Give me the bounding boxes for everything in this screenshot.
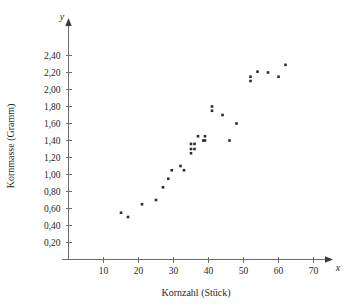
x-tick-label: 40 xyxy=(204,266,214,276)
data-point xyxy=(127,216,130,219)
y-tick-label: 1,40 xyxy=(44,136,61,146)
data-point xyxy=(190,148,193,151)
data-point xyxy=(221,114,224,117)
y-tick-label: 1,80 xyxy=(44,102,61,112)
data-point xyxy=(120,211,123,214)
y-tick-label: 2,40 xyxy=(44,51,61,61)
y-axis-title: Kornmasse (Gramm) xyxy=(5,104,17,189)
data-point xyxy=(228,139,231,142)
x-tick-label: 60 xyxy=(274,266,284,276)
y-tick-label: 0,80 xyxy=(44,187,61,197)
data-point xyxy=(204,139,207,142)
data-point xyxy=(155,199,158,202)
scatter-plot-svg: y x 0,200,400,600,801,001,201,401,601,80… xyxy=(0,0,347,306)
data-point xyxy=(249,80,252,83)
y-tick-label: 2,20 xyxy=(44,68,61,78)
data-point xyxy=(267,71,270,74)
data-point xyxy=(256,70,259,73)
data-point xyxy=(193,148,196,151)
data-point xyxy=(211,105,214,108)
y-axis-arrow-icon xyxy=(65,18,71,26)
x-tick-label: 20 xyxy=(134,266,144,276)
data-point xyxy=(277,75,280,78)
data-point xyxy=(141,203,144,206)
x-tick-label: 70 xyxy=(309,266,319,276)
data-point xyxy=(193,143,196,146)
data-point xyxy=(204,135,207,138)
data-point xyxy=(183,169,186,172)
x-tick-label: 50 xyxy=(239,266,249,276)
y-axis-ticks: 0,200,400,600,801,001,201,401,601,802,00… xyxy=(44,51,72,248)
x-axis-symbol: x xyxy=(335,262,341,273)
y-axis-symbol: y xyxy=(59,11,65,22)
x-tick-label: 30 xyxy=(169,266,179,276)
scatter-chart-figure: y x 0,200,400,600,801,001,201,401,601,80… xyxy=(0,0,347,306)
y-tick-label: 1,00 xyxy=(44,170,61,180)
x-axis-arrow-icon xyxy=(325,256,333,262)
y-tick-label: 0,20 xyxy=(44,238,61,248)
data-point xyxy=(190,152,193,155)
data-point xyxy=(284,64,287,67)
x-tick-label: 10 xyxy=(99,266,109,276)
data-point xyxy=(179,165,182,168)
data-point xyxy=(211,109,214,112)
data-point xyxy=(190,143,193,146)
data-point xyxy=(235,122,238,125)
data-point xyxy=(162,186,165,189)
data-point xyxy=(249,75,252,78)
y-tick-label: 1,20 xyxy=(44,153,61,163)
data-point xyxy=(197,135,200,138)
data-point xyxy=(167,177,170,180)
x-axis-title: Kornzahl (Stück) xyxy=(161,287,230,299)
y-tick-label: 0,60 xyxy=(44,204,61,214)
y-tick-label: 1,60 xyxy=(44,119,61,129)
data-point xyxy=(170,169,173,172)
y-tick-label: 2,00 xyxy=(44,85,61,95)
y-tick-label: 0,40 xyxy=(44,221,61,231)
data-points-layer xyxy=(120,64,287,219)
